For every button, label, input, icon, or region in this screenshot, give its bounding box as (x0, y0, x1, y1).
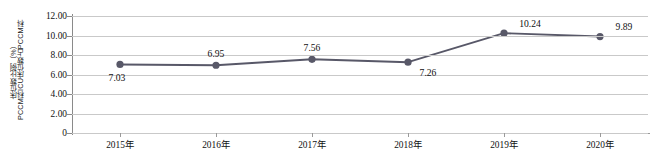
x-axis-tick-mark (312, 133, 313, 137)
data-point-label: 6.95 (208, 48, 225, 59)
gridline (72, 36, 648, 37)
data-point-marker (596, 33, 603, 40)
gridline (72, 94, 648, 95)
y-axis-title-line-1: PCCM科ICU床位数占PCCM科 (17, 20, 24, 120)
x-axis-tick-mark (504, 133, 505, 137)
y-axis-tick-mark (66, 114, 72, 115)
x-axis-tick-mark (408, 133, 409, 137)
gridline (72, 75, 648, 76)
x-axis-tick-label: 2019年 (490, 137, 518, 151)
x-axis-tick-mark (216, 133, 217, 137)
y-axis-title-line-2: 床位数比例（%） (10, 42, 17, 99)
y-axis-tick-labels: 02.004.006.008.0010.0012.00 (30, 0, 70, 140)
y-axis-tick-mark (66, 16, 72, 17)
data-point-label: 7.26 (420, 67, 437, 78)
y-axis-tick-label: 4.00 (51, 89, 67, 99)
data-point-label: 10.24 (519, 18, 541, 29)
gridline (72, 133, 648, 134)
gridline (72, 55, 648, 56)
x-axis-tick-label: 2016年 (202, 137, 230, 151)
data-point-marker (212, 62, 219, 69)
gridline (72, 16, 648, 17)
gridline (72, 114, 648, 115)
y-axis-tick-label: 12.00 (46, 11, 67, 21)
y-axis-tick-mark (66, 94, 72, 95)
data-point-marker (404, 59, 411, 66)
x-axis-tick-label: 2017年 (298, 137, 326, 151)
x-axis-tick-label: 2020年 (586, 137, 614, 151)
x-axis-tick-label: 2018年 (394, 137, 422, 151)
x-axis-tick-labels: 2015年2016年2017年2018年2019年2020年 (72, 136, 650, 158)
x-axis-tick-mark (600, 133, 601, 137)
data-point-marker (308, 56, 315, 63)
y-axis-tick-mark (66, 133, 72, 134)
y-axis-tick-label: 6.00 (51, 70, 67, 80)
y-axis-tick-mark (66, 36, 72, 37)
y-axis-tick-label: 8.00 (51, 50, 67, 60)
y-axis-tick-mark (66, 75, 72, 76)
y-axis-tick-mark (66, 55, 72, 56)
x-axis-tick-label: 2015年 (106, 137, 134, 151)
y-axis-title: PCCM科ICU床位数占PCCM科 床位数比例（%） (0, 0, 34, 140)
x-axis-tick-mark (120, 133, 121, 137)
series-polyline (120, 33, 600, 65)
data-point-marker (116, 61, 123, 68)
data-point-label: 7.03 (109, 72, 126, 83)
plot-area: 7.036.957.567.2610.249.89 (72, 16, 648, 133)
line-chart: PCCM科ICU床位数占PCCM科 床位数比例（%） 02.004.006.00… (0, 0, 653, 165)
y-axis-tick-label: 10.00 (46, 31, 67, 41)
data-point-label: 7.56 (304, 42, 321, 53)
data-point-label: 9.89 (616, 20, 633, 31)
y-axis-tick-label: 2.00 (51, 109, 67, 119)
